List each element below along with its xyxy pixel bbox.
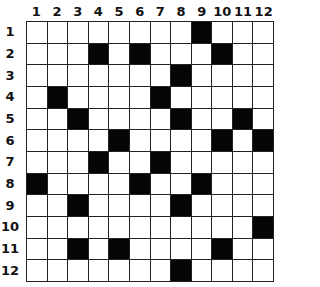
white-cell-r7-c5[interactable] [109, 152, 130, 174]
white-cell-r1-c12[interactable] [253, 22, 274, 44]
white-cell-r12-c1[interactable] [27, 260, 48, 282]
white-cell-r8-c4[interactable] [89, 174, 110, 196]
white-cell-r10-c1[interactable] [27, 217, 48, 239]
white-cell-r9-c5[interactable] [109, 195, 130, 217]
white-cell-r3-c1[interactable] [27, 65, 48, 87]
white-cell-r1-c6[interactable] [130, 22, 151, 44]
white-cell-r4-c8[interactable] [171, 87, 192, 109]
white-cell-r5-c10[interactable] [212, 109, 233, 131]
white-cell-r4-c6[interactable] [130, 87, 151, 109]
white-cell-r12-c2[interactable] [48, 260, 69, 282]
white-cell-r11-c8[interactable] [171, 239, 192, 261]
white-cell-r6-c11[interactable] [233, 130, 254, 152]
white-cell-r4-c1[interactable] [27, 87, 48, 109]
white-cell-r10-c9[interactable] [192, 217, 213, 239]
white-cell-r9-c10[interactable] [212, 195, 233, 217]
white-cell-r9-c12[interactable] [253, 195, 274, 217]
white-cell-r10-c11[interactable] [233, 217, 254, 239]
white-cell-r12-c10[interactable] [212, 260, 233, 282]
white-cell-r10-c8[interactable] [171, 217, 192, 239]
white-cell-r2-c7[interactable] [151, 44, 172, 66]
white-cell-r3-c6[interactable] [130, 65, 151, 87]
white-cell-r12-c11[interactable] [233, 260, 254, 282]
white-cell-r7-c1[interactable] [27, 152, 48, 174]
white-cell-r5-c5[interactable] [109, 109, 130, 131]
white-cell-r5-c6[interactable] [130, 109, 151, 131]
white-cell-r1-c3[interactable] [68, 22, 89, 44]
white-cell-r7-c2[interactable] [48, 152, 69, 174]
white-cell-r7-c8[interactable] [171, 152, 192, 174]
white-cell-r11-c12[interactable] [253, 239, 274, 261]
white-cell-r11-c9[interactable] [192, 239, 213, 261]
white-cell-r1-c4[interactable] [89, 22, 110, 44]
white-cell-r8-c2[interactable] [48, 174, 69, 196]
white-cell-r6-c6[interactable] [130, 130, 151, 152]
white-cell-r1-c1[interactable] [27, 22, 48, 44]
white-cell-r11-c1[interactable] [27, 239, 48, 261]
white-cell-r2-c1[interactable] [27, 44, 48, 66]
white-cell-r10-c10[interactable] [212, 217, 233, 239]
white-cell-r8-c3[interactable] [68, 174, 89, 196]
white-cell-r5-c12[interactable] [253, 109, 274, 131]
white-cell-r4-c3[interactable] [68, 87, 89, 109]
white-cell-r12-c12[interactable] [253, 260, 274, 282]
white-cell-r11-c6[interactable] [130, 239, 151, 261]
white-cell-r3-c11[interactable] [233, 65, 254, 87]
white-cell-r5-c9[interactable] [192, 109, 213, 131]
white-cell-r7-c11[interactable] [233, 152, 254, 174]
white-cell-r9-c6[interactable] [130, 195, 151, 217]
white-cell-r11-c2[interactable] [48, 239, 69, 261]
white-cell-r6-c9[interactable] [192, 130, 213, 152]
white-cell-r12-c7[interactable] [151, 260, 172, 282]
white-cell-r6-c8[interactable] [171, 130, 192, 152]
white-cell-r7-c6[interactable] [130, 152, 151, 174]
white-cell-r10-c3[interactable] [68, 217, 89, 239]
white-cell-r6-c1[interactable] [27, 130, 48, 152]
white-cell-r8-c8[interactable] [171, 174, 192, 196]
white-cell-r4-c10[interactable] [212, 87, 233, 109]
white-cell-r5-c4[interactable] [89, 109, 110, 131]
white-cell-r2-c2[interactable] [48, 44, 69, 66]
white-cell-r4-c11[interactable] [233, 87, 254, 109]
white-cell-r2-c9[interactable] [192, 44, 213, 66]
white-cell-r8-c5[interactable] [109, 174, 130, 196]
white-cell-r10-c6[interactable] [130, 217, 151, 239]
white-cell-r8-c10[interactable] [212, 174, 233, 196]
white-cell-r9-c1[interactable] [27, 195, 48, 217]
white-cell-r2-c3[interactable] [68, 44, 89, 66]
white-cell-r12-c9[interactable] [192, 260, 213, 282]
white-cell-r6-c3[interactable] [68, 130, 89, 152]
white-cell-r2-c11[interactable] [233, 44, 254, 66]
white-cell-r3-c5[interactable] [109, 65, 130, 87]
white-cell-r5-c1[interactable] [27, 109, 48, 131]
white-cell-r4-c9[interactable] [192, 87, 213, 109]
white-cell-r3-c3[interactable] [68, 65, 89, 87]
white-cell-r3-c4[interactable] [89, 65, 110, 87]
white-cell-r4-c5[interactable] [109, 87, 130, 109]
white-cell-r9-c11[interactable] [233, 195, 254, 217]
white-cell-r12-c5[interactable] [109, 260, 130, 282]
white-cell-r3-c9[interactable] [192, 65, 213, 87]
white-cell-r1-c7[interactable] [151, 22, 172, 44]
white-cell-r1-c8[interactable] [171, 22, 192, 44]
white-cell-r8-c11[interactable] [233, 174, 254, 196]
white-cell-r9-c4[interactable] [89, 195, 110, 217]
white-cell-r6-c7[interactable] [151, 130, 172, 152]
white-cell-r7-c9[interactable] [192, 152, 213, 174]
white-cell-r11-c11[interactable] [233, 239, 254, 261]
white-cell-r1-c2[interactable] [48, 22, 69, 44]
white-cell-r10-c4[interactable] [89, 217, 110, 239]
white-cell-r10-c2[interactable] [48, 217, 69, 239]
white-cell-r11-c7[interactable] [151, 239, 172, 261]
white-cell-r4-c12[interactable] [253, 87, 274, 109]
white-cell-r11-c4[interactable] [89, 239, 110, 261]
white-cell-r6-c4[interactable] [89, 130, 110, 152]
white-cell-r7-c3[interactable] [68, 152, 89, 174]
white-cell-r3-c10[interactable] [212, 65, 233, 87]
white-cell-r7-c12[interactable] [253, 152, 274, 174]
white-cell-r3-c7[interactable] [151, 65, 172, 87]
white-cell-r12-c4[interactable] [89, 260, 110, 282]
white-cell-r5-c2[interactable] [48, 109, 69, 131]
white-cell-r2-c5[interactable] [109, 44, 130, 66]
white-cell-r8-c7[interactable] [151, 174, 172, 196]
